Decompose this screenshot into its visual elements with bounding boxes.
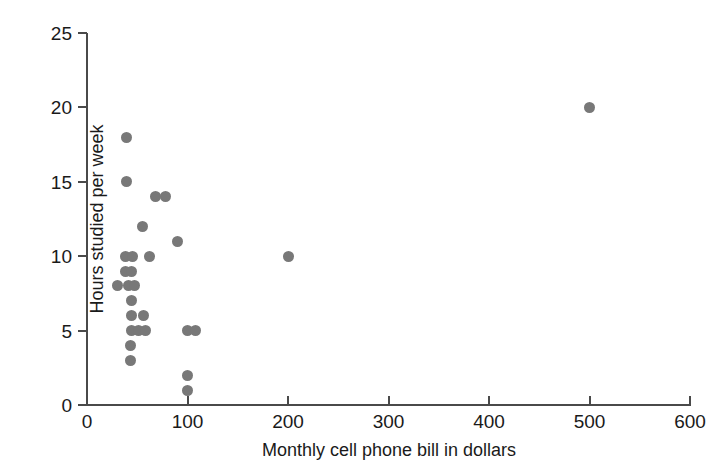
data-point xyxy=(126,295,137,306)
data-point xyxy=(126,266,137,277)
data-point xyxy=(126,310,137,321)
x-tick-label: 0 xyxy=(82,412,93,431)
y-tick-label: 5 xyxy=(61,321,72,340)
data-point xyxy=(182,370,193,381)
data-point xyxy=(127,251,138,262)
x-tick-label: 100 xyxy=(172,412,204,431)
y-tick-label: 10 xyxy=(51,247,72,266)
y-tick-label: 20 xyxy=(51,98,72,117)
data-point xyxy=(129,280,140,291)
data-point xyxy=(121,176,132,187)
data-point xyxy=(190,325,201,336)
y-tick-label: 25 xyxy=(51,24,72,43)
x-tick-label: 600 xyxy=(674,412,706,431)
y-axis-title: Hours studied per week xyxy=(88,124,106,313)
data-point xyxy=(112,280,123,291)
plot-area xyxy=(87,33,690,405)
y-tick-mark xyxy=(78,32,87,34)
y-tick-mark xyxy=(78,330,87,332)
y-tick-mark xyxy=(78,106,87,108)
data-point xyxy=(138,310,149,321)
x-axis-title: Monthly cell phone bill in dollars xyxy=(87,441,691,459)
y-tick-label: 0 xyxy=(61,396,72,415)
scatter-plot-figure: 0100200300400500600 0510152025 Monthly c… xyxy=(0,0,727,475)
data-point xyxy=(125,355,136,366)
data-point xyxy=(140,325,151,336)
x-tick-label: 200 xyxy=(272,412,304,431)
x-tick-label: 500 xyxy=(574,412,606,431)
data-point xyxy=(182,385,193,396)
data-point xyxy=(121,132,132,143)
data-point xyxy=(283,251,294,262)
data-point xyxy=(125,340,136,351)
data-point xyxy=(144,251,155,262)
data-point xyxy=(160,191,171,202)
data-point xyxy=(584,102,595,113)
y-tick-mark xyxy=(78,404,87,406)
x-tick-label: 300 xyxy=(373,412,405,431)
data-point xyxy=(137,221,148,232)
y-tick-label: 15 xyxy=(51,172,72,191)
x-tick-label: 400 xyxy=(473,412,505,431)
data-point xyxy=(172,236,183,247)
